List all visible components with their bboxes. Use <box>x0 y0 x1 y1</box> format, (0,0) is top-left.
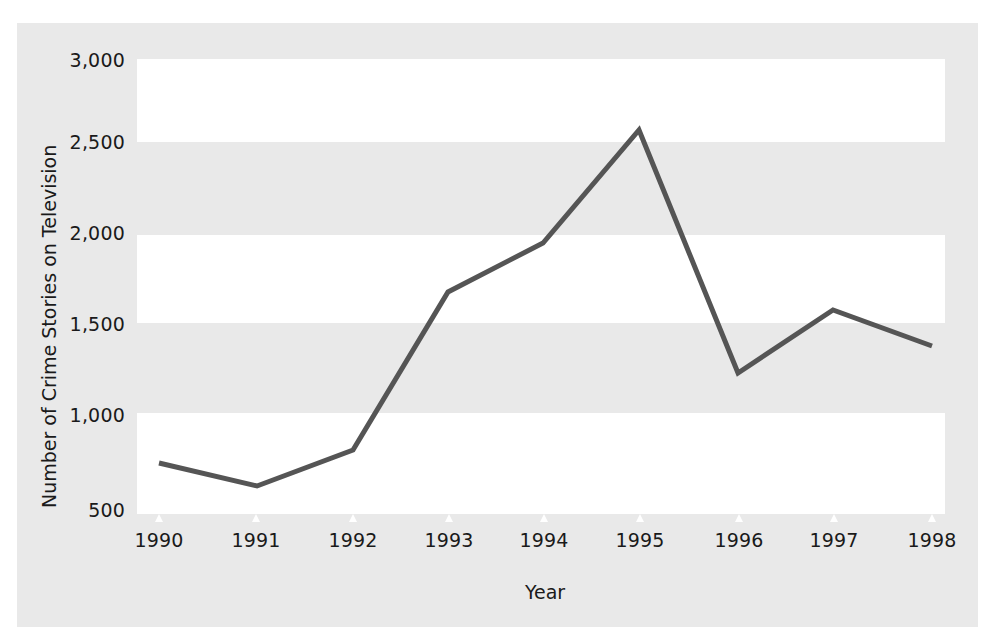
data-line-crime-stories <box>159 130 932 486</box>
chart-figure: 3,000 2,500 2,000 1,500 1,000 500 1990 1… <box>0 0 998 643</box>
x-tick-marks <box>155 514 936 522</box>
chart-overlay <box>0 0 998 643</box>
